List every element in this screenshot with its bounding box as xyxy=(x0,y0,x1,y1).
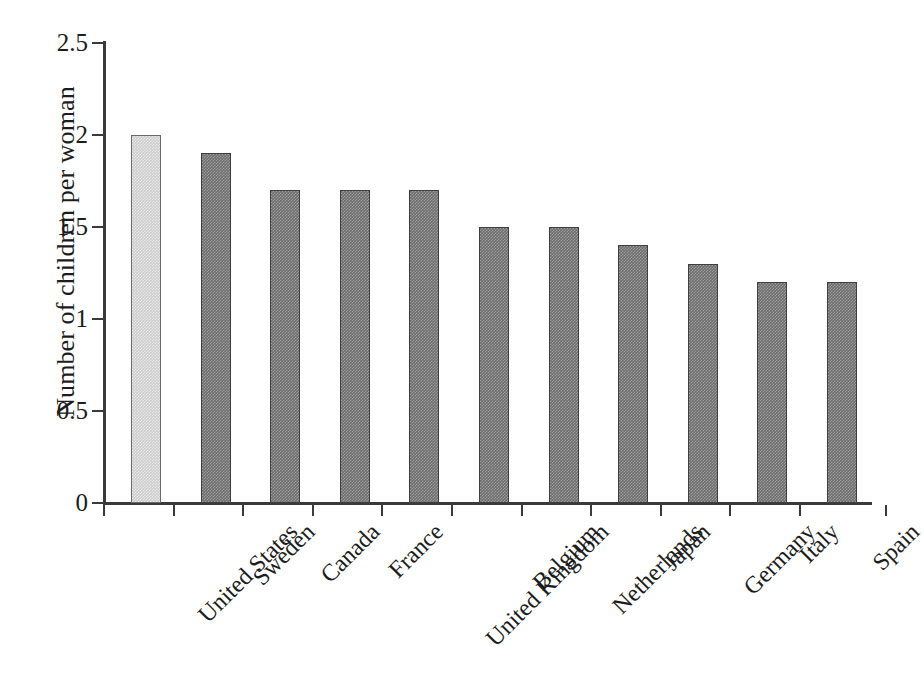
x-axis-tick xyxy=(590,505,592,516)
x-axis-tick xyxy=(521,505,523,516)
x-axis-tick-label: Spain xyxy=(868,519,924,575)
bar-france xyxy=(340,190,370,503)
x-axis-tick xyxy=(242,505,244,516)
x-axis-tick-label-text: Canada xyxy=(316,519,384,587)
y-axis-tick-label: 1 xyxy=(2,306,88,331)
y-axis-tick-label: 0.5 xyxy=(2,398,88,423)
x-axis-tick xyxy=(312,505,314,516)
x-axis-tick xyxy=(381,505,383,516)
x-axis-tick-label: Canada xyxy=(316,519,384,587)
x-axis-tick xyxy=(729,505,731,516)
y-axis-tick xyxy=(92,226,103,228)
x-axis-tick-label-text: France xyxy=(384,519,447,582)
y-axis-tick-label: 1.5 xyxy=(2,214,88,239)
y-axis-tick xyxy=(92,502,103,504)
bar-united-kingdom xyxy=(409,190,439,503)
y-axis-tick-label: 2.5 xyxy=(2,30,88,55)
bar-netherlands xyxy=(549,227,579,503)
y-axis-tick-label: 2 xyxy=(2,122,88,147)
x-axis-tick-label-text: Spain xyxy=(868,519,924,575)
bar-united-states xyxy=(131,135,161,503)
x-axis-tick-label: Japan xyxy=(659,519,715,575)
x-axis-tick-label-text: Japan xyxy=(659,519,715,575)
bar-canada xyxy=(270,190,300,503)
x-axis-tick xyxy=(885,505,887,516)
x-axis-tick xyxy=(799,505,801,516)
y-axis-tick-label: 0 xyxy=(2,490,88,515)
y-axis-tick xyxy=(92,318,103,320)
bar-italy xyxy=(757,282,787,503)
x-axis-tick xyxy=(660,505,662,516)
y-axis-tick xyxy=(92,42,103,44)
bar-spain xyxy=(827,282,857,503)
x-axis-tick xyxy=(103,505,105,516)
bar-sweden xyxy=(201,153,231,503)
bar-japan xyxy=(618,245,648,503)
bar-belgium xyxy=(479,227,509,503)
x-axis-tick xyxy=(173,505,175,516)
y-axis-tick xyxy=(92,134,103,136)
bar-germany xyxy=(688,264,718,503)
x-axis-tick xyxy=(451,505,453,516)
y-axis-tick-labels: 00.511.522.5 xyxy=(0,0,88,674)
y-axis-tick xyxy=(92,410,103,412)
x-axis-tick-label: France xyxy=(384,519,447,582)
